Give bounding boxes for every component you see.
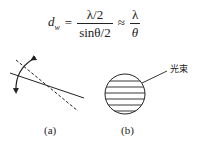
beam-circle [105,74,145,114]
diagram-b [100,71,167,114]
diagram-a [10,59,84,111]
dashed-line [16,60,78,111]
rotation-arrow-icon [16,59,33,91]
beam-hatching [100,81,150,111]
caption-a: (a) [44,124,56,136]
beam-callout-label: 光束 [170,62,188,75]
caption-b: (b) [121,124,134,136]
callout-leader-line [142,71,167,83]
